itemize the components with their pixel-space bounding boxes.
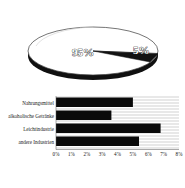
x-tick-7: 7% xyxy=(160,151,168,157)
category-label-3: Leichtindustrie xyxy=(23,126,55,132)
category-label-2: alkoholische Getränke xyxy=(8,113,54,119)
pie-label-5: 5% xyxy=(133,44,150,56)
figure-container: 95% 5% xyxy=(0,0,185,188)
pie-chart: 95% 5% xyxy=(0,0,185,94)
x-tick-8: 8% xyxy=(176,151,184,157)
pie-label-95: 95% xyxy=(72,46,94,58)
bar-chart-svg: Nahrungsmittel alkoholische Getränke Lei… xyxy=(0,94,185,188)
bar-row-4 xyxy=(56,137,139,147)
bar-row-3 xyxy=(56,124,161,134)
x-tick-5: 5% xyxy=(130,151,138,157)
category-label-1: Nahrungsmittel xyxy=(22,100,54,106)
x-tick-1: 1% xyxy=(68,151,76,157)
x-tick-3: 3% xyxy=(99,151,107,157)
x-tick-6: 6% xyxy=(145,151,153,157)
bar-chart: Nahrungsmittel alkoholische Getränke Lei… xyxy=(0,94,185,188)
x-tick-2: 2% xyxy=(83,151,91,157)
pie-chart-svg: 95% 5% xyxy=(0,0,185,94)
category-label-4: andere Industrien xyxy=(19,139,55,145)
bar-row-1 xyxy=(56,98,133,108)
bar-row-2 xyxy=(56,111,111,121)
x-tick-4: 4% xyxy=(114,151,122,157)
x-tick-0: 0% xyxy=(53,151,61,157)
